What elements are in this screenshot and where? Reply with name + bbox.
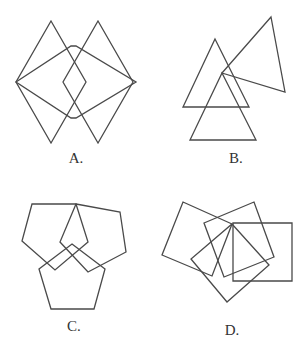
option-a-rhombus-right <box>63 21 133 143</box>
option-c-pentagon-bottom <box>39 244 105 309</box>
option-d-square-1 <box>162 202 232 276</box>
option-b-triangle-upper <box>183 39 249 107</box>
option-d-figure[interactable] <box>162 202 292 302</box>
figure-canvas <box>0 0 302 340</box>
option-c-pentagon-right <box>60 204 126 272</box>
option-a-figure[interactable] <box>16 21 136 143</box>
option-c-label: C. <box>67 318 81 335</box>
option-d-label: D. <box>225 322 240 339</box>
option-c-figure[interactable] <box>22 204 126 309</box>
option-b-triangle-rotated <box>222 17 285 92</box>
option-a-rhombus-left <box>16 21 86 143</box>
option-a-label: A. <box>69 150 84 167</box>
option-c-pentagon-left <box>22 204 88 270</box>
option-b-label: B. <box>229 150 243 167</box>
option-d-square-3 <box>233 223 292 281</box>
option-b-figure[interactable] <box>183 17 285 140</box>
